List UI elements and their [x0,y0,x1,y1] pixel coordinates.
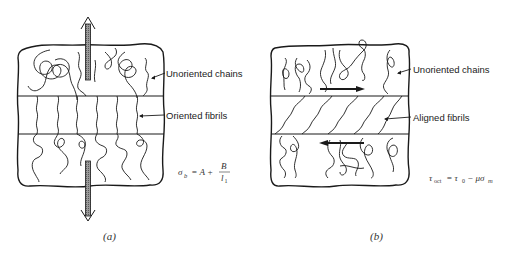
panel-a-leader-oriented [140,115,164,116]
panel-b-specimen-outline [270,44,409,187]
leader-arrowhead-icon [151,76,155,80]
eq-a-rhs: = A + [189,167,215,177]
leader-arrowhead-icon [397,71,401,75]
panel-b-label-aligned-fibrils: Aligned fibrils [413,112,470,123]
leader-arrowhead-icon [139,114,143,118]
eq-a-lhs-sub: b [184,172,188,179]
panel-b-shear-arrow-left [319,140,364,146]
eq-a-frac-den-sub: 1 [225,178,228,184]
leader-arrowhead-icon [384,117,388,121]
eq-b-rest-sub: m [488,177,493,184]
panel-a-caption: (a) [103,230,116,243]
panel-b-unoriented-chains-top [283,40,395,94]
panel-a-tension-arrow-up [81,17,95,80]
panel-b-caption: (b) [370,230,383,243]
panel-a-equation: σ b = A + B l 1 [178,161,230,184]
eq-b-lhs-sub: oct [434,178,442,184]
panel-b-label-unoriented-chains: Unoriented chains [413,64,490,75]
panel-a-label-oriented-fibrils: Oriented fibrils [166,110,227,121]
eq-b-eq: = τ [444,173,459,183]
eq-a-frac-num: B [221,161,227,171]
panel-a-label-unoriented-chains: Unoriented chains [166,68,243,79]
panel-b: Unoriented chains Aligned fibrils τ oct … [270,40,493,243]
figure-canvas: Unoriented chains Oriented fibrils σ b =… [0,0,506,254]
eq-b-lhs: τ [429,173,433,183]
panel-b-equation: τ oct = τ 0 − μσ m [429,173,493,184]
panel-a-oriented-fibrils [36,96,137,134]
panel-b-aligned-fibrils [275,96,402,134]
eq-a-lhs: σ [178,167,183,177]
panel-a-tension-arrow-down [81,161,95,221]
eq-b-rest: − μσ [465,173,485,183]
panel-a: Unoriented chains Oriented fibrils σ b =… [17,17,242,243]
